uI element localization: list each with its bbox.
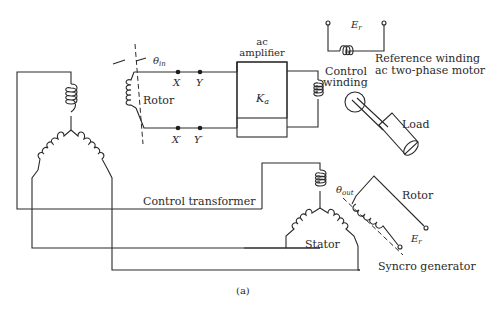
- control-winding: Control winding: [287, 65, 368, 127]
- schematic-canvas: θin Rotor X Y X′ Y′ ac amplifier Ka Cont…: [0, 0, 488, 316]
- y-prime-label: Y′: [194, 134, 204, 145]
- x-prime-label: X′: [171, 134, 182, 145]
- figure-caption: (a): [236, 285, 250, 296]
- amplifier-label: amplifier: [239, 47, 285, 58]
- stator-label: Stator: [305, 238, 341, 251]
- x-label: X: [172, 77, 181, 88]
- control-winding-label-2: winding: [323, 76, 368, 89]
- motor-label: ac two-phase motor: [375, 64, 486, 77]
- motor-shaft-load: Load: [345, 92, 430, 158]
- rotor-out-label: Rotor: [402, 189, 434, 202]
- amplifier-box: [237, 62, 287, 118]
- synchro-generator-rotor: θout Rotor Er Syncro generator: [336, 176, 476, 273]
- synchro-generator-stator: Stator: [244, 163, 360, 270]
- amplifier-label-ac: ac: [256, 36, 268, 47]
- control-transformer-label: Control transformer: [143, 195, 256, 208]
- theta-out-label: θout: [336, 184, 354, 197]
- rotor-in-label: Rotor: [143, 94, 175, 107]
- y-label: Y: [196, 77, 204, 88]
- load-label: Load: [402, 118, 430, 131]
- er-bottom-label: Er: [410, 233, 422, 246]
- stator-coil-top: [66, 84, 77, 112]
- terminal-x: [176, 70, 181, 75]
- terminal-y: [198, 70, 203, 75]
- rotor-coil-in: [126, 72, 136, 108]
- stator-coil-left: [38, 130, 71, 170]
- stator-coil-right: [71, 130, 108, 170]
- terminal-y-prime: [198, 126, 203, 131]
- terminal-x-prime: [176, 126, 181, 131]
- gain-label: Ka: [255, 92, 269, 106]
- ac-amplifier: ac amplifier Ka: [237, 36, 287, 128]
- control-transformer-rotor: θin Rotor X Y X′ Y′: [113, 44, 237, 145]
- synchro-generator-label: Syncro generator: [378, 260, 476, 273]
- theta-in-label: θin: [153, 55, 166, 68]
- er-top-label: Er: [350, 19, 362, 32]
